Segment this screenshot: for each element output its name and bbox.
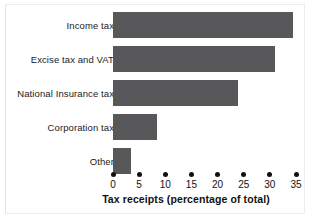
category-label-corporation-tax: Corporation tax [48, 122, 114, 133]
chart-figure: Income tax Excise tax and VAT National I… [0, 0, 310, 218]
x-tick-label-30: 30 [259, 179, 281, 191]
category-label-excise-tax-and-vat: Excise tax and VAT [31, 54, 114, 65]
x-tick-label-20: 20 [207, 179, 229, 191]
x-tick-label-0: 0 [102, 179, 124, 191]
bar-excise-tax-and-vat [113, 46, 275, 72]
x-axis-title-text: Tax receipts (percentage of total) [102, 193, 270, 205]
x-tick-label-5: 5 [128, 179, 150, 191]
bar-national-insurance-tax [113, 80, 238, 106]
plot-area: Income tax Excise tax and VAT National I… [0, 0, 310, 218]
x-tick-dot-30 [267, 172, 272, 177]
category-label-other: Other [90, 156, 114, 167]
bar-corporation-tax [113, 114, 157, 140]
x-tick-dot-15 [189, 172, 194, 177]
x-tick-dot-5 [137, 172, 142, 177]
x-tick-dot-0 [111, 172, 116, 177]
category-label-national-insurance-tax: National Insurance tax [17, 88, 114, 99]
x-axis-title: Tax receipts (percentage of total) [0, 193, 310, 205]
x-tick-dot-25 [241, 172, 246, 177]
x-tick-dot-35 [294, 172, 299, 177]
bar-income-tax [113, 12, 293, 38]
bar-other [113, 148, 131, 174]
category-label-income-tax: Income tax [67, 20, 114, 31]
x-tick-dot-20 [215, 172, 220, 177]
x-tick-label-15: 15 [180, 179, 202, 191]
x-tick-dot-10 [163, 172, 168, 177]
x-tick-label-35: 35 [285, 179, 307, 191]
x-tick-label-25: 25 [233, 179, 255, 191]
x-tick-label-10: 10 [154, 179, 176, 191]
